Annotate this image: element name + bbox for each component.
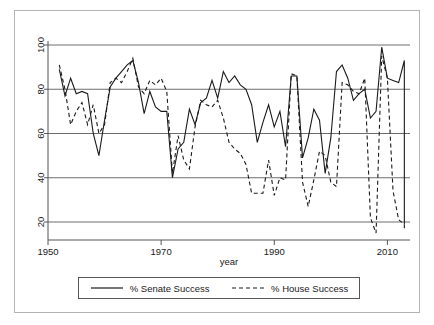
- y-tick-label-20: 20: [35, 217, 46, 228]
- chart-legend: % Senate Success % House Success: [78, 277, 360, 299]
- legend-label-senate: % Senate Success: [130, 283, 210, 294]
- series-line-house-success: [59, 56, 404, 233]
- x-tick-group: 1950197019902010: [37, 240, 398, 257]
- y-tick-label-40: 40: [35, 172, 46, 183]
- x-axis-title: year: [220, 256, 238, 267]
- y-tick-label-80: 80: [35, 84, 46, 95]
- legend-swatch-solid-icon: [90, 284, 124, 292]
- series-line-senate-success: [59, 47, 404, 224]
- legend-label-house: % House Success: [271, 283, 348, 294]
- x-tick-label-1970: 1970: [151, 246, 172, 257]
- chart-figure: 20406080100 1950197019902010 year % Sena…: [0, 0, 434, 325]
- y-tick-label-100: 100: [35, 37, 46, 53]
- data-series-group: [59, 47, 404, 233]
- x-tick-label-2010: 2010: [377, 246, 398, 257]
- x-tick-label-1950: 1950: [37, 246, 58, 257]
- legend-swatch-dashed-icon: [231, 284, 265, 292]
- y-tick-label-60: 60: [35, 128, 46, 139]
- legend-item-senate: % Senate Success: [90, 283, 210, 294]
- x-tick-label-1990: 1990: [264, 246, 285, 257]
- y-tick-group: 20406080100: [35, 37, 49, 227]
- legend-item-house: % House Success: [231, 283, 348, 294]
